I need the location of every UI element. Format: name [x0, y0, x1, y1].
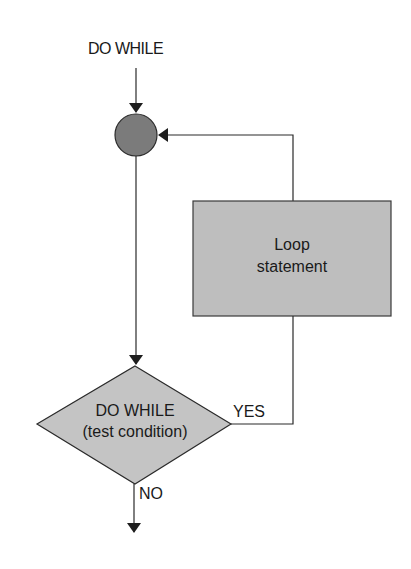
decision-line1: DO WHILE	[37, 400, 233, 421]
loop-statement-line1: Loop	[193, 234, 391, 256]
decision-text: DO WHILE (test condition)	[37, 400, 233, 442]
loop-back-line	[159, 135, 293, 201]
decision-line2: (test condition)	[37, 421, 233, 442]
no-label: NO	[139, 485, 163, 503]
loop-statement-line2: statement	[193, 256, 391, 278]
start-label: DO WHILE	[88, 40, 163, 58]
junction-circle	[115, 114, 157, 156]
flowchart-canvas	[0, 0, 411, 569]
yes-label: YES	[233, 403, 265, 421]
loop-statement-text: Loop statement	[193, 234, 391, 278]
